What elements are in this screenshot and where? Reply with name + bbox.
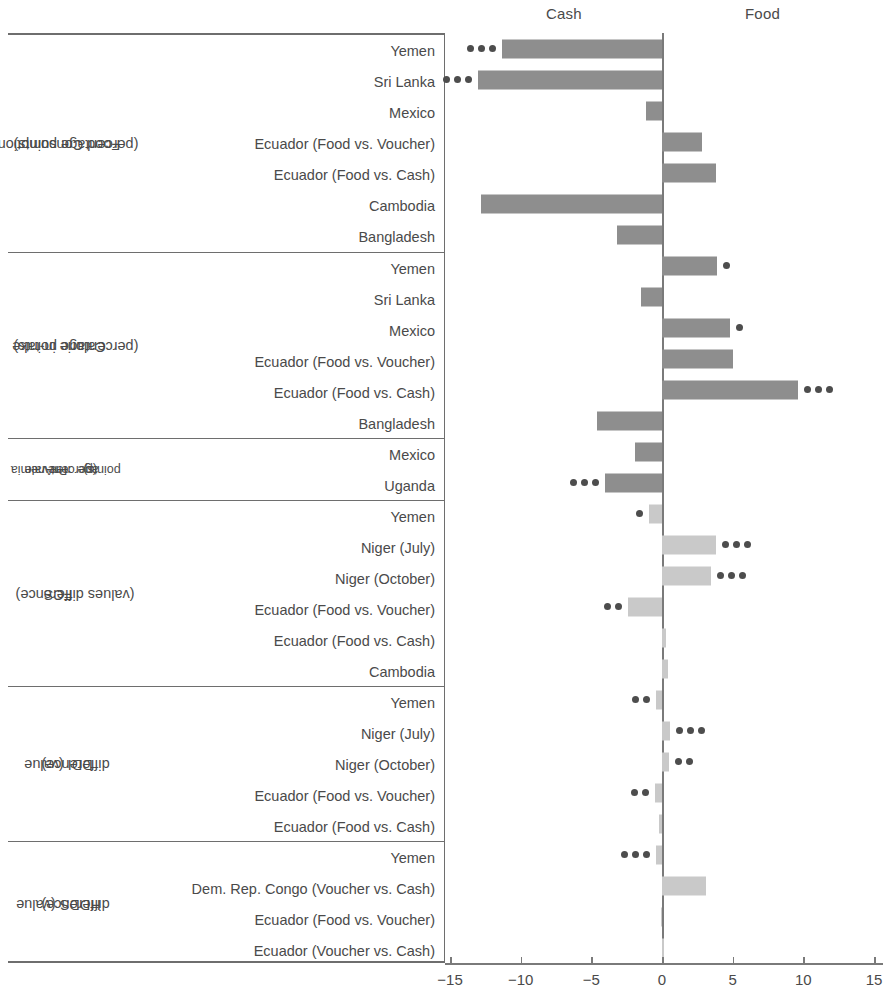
significance-dot-icon	[717, 572, 724, 579]
bar	[662, 566, 711, 585]
bar	[655, 783, 662, 802]
bar	[662, 752, 669, 771]
bar	[649, 504, 662, 523]
category-label: Yemen	[390, 509, 435, 524]
category-label: Ecuador (Food vs. Voucher)	[254, 788, 435, 803]
category-label: Ecuador (Food vs. Cash)	[274, 633, 435, 648]
bar	[646, 101, 662, 120]
group-label: HDDS (valuedifference)	[8, 842, 126, 965]
bar	[662, 318, 730, 337]
category-label: Ecuador (Food vs. Voucher)	[254, 354, 435, 369]
group-rows: YemenDem. Rep. Congo (Voucher vs. Cash)E…	[126, 842, 444, 965]
significance-dots	[722, 541, 751, 549]
axis-tick-label: 15	[866, 971, 883, 988]
significance-dot-icon	[636, 510, 643, 517]
category-label: Sri Lanka	[374, 74, 435, 89]
axis-tick	[874, 957, 876, 965]
significance-dot-icon	[744, 541, 751, 548]
significance-dots	[736, 324, 743, 332]
group-label-text: AnemiaPrevalenee(percentagepoints)	[25, 442, 109, 498]
bar	[662, 132, 702, 151]
significance-dot-icon	[604, 603, 611, 610]
significance-dot-icon	[736, 324, 743, 331]
group-label-text: Food Consumption(percentage points)	[50, 81, 84, 206]
significance-dot-icon	[570, 479, 577, 486]
significance-dot-icon	[826, 386, 833, 393]
group-rows: MexicoUganda	[126, 439, 444, 500]
category-label: Bangladesh	[358, 416, 435, 431]
group-label: Food Consumption(percentage points)	[8, 35, 126, 252]
category-label: Ecuador (Food vs. Cash)	[274, 167, 435, 182]
significance-dot-icon	[815, 386, 822, 393]
category-label: Mexico	[389, 323, 435, 338]
significance-dot-icon	[443, 76, 450, 83]
bar	[628, 597, 662, 616]
group-label: Calorie in-take(percentage points)	[8, 253, 126, 438]
bar	[478, 70, 662, 89]
group-label: DDI (valuedifference)	[8, 687, 126, 841]
significance-dots	[443, 76, 472, 84]
significance-dot-icon	[632, 696, 639, 703]
significance-dot-icon	[687, 727, 694, 734]
category-label-frame: Food Consumption(percentage points)Yemen…	[8, 33, 445, 963]
significance-dot-icon	[581, 479, 588, 486]
significance-dot-icon	[467, 45, 474, 52]
category-label: Uganda	[384, 478, 435, 493]
bar	[597, 411, 662, 430]
category-label: Ecuador (Food vs. Cash)	[274, 385, 435, 400]
axis-side-label-cash: Cash	[546, 5, 582, 22]
group-label: AnemiaPrevalenee(percentagepoints)	[8, 439, 126, 500]
significance-dot-icon	[643, 696, 650, 703]
significance-dot-icon	[643, 851, 650, 858]
bar	[661, 907, 663, 926]
axis-tick	[591, 957, 593, 965]
axis-tick-label: −10	[508, 971, 533, 988]
category-label: Ecuador (Food vs. Voucher)	[254, 602, 435, 617]
category-group: Calorie in-take(percentage points)YemenS…	[8, 252, 444, 438]
significance-dots	[621, 851, 650, 859]
significance-dots	[804, 386, 833, 394]
significance-dot-icon	[698, 727, 705, 734]
bar	[481, 194, 662, 213]
bar	[662, 256, 717, 275]
bar	[662, 721, 670, 740]
significance-dot-icon	[632, 851, 639, 858]
group-rows: YemenNiger (July)Niger (October)Ecuador …	[126, 687, 444, 841]
category-group: FCS(values difference)YemenNiger (July)N…	[8, 500, 444, 686]
category-label: Niger (July)	[361, 726, 435, 741]
bar	[635, 442, 662, 461]
category-label: Niger (July)	[361, 540, 435, 555]
significance-dots	[717, 572, 746, 580]
group-label-text: HDDS (valuedifference)	[50, 845, 84, 963]
significance-dot-icon	[675, 758, 682, 765]
x-axis-line	[445, 963, 883, 965]
category-group: Food Consumption(percentage points)Yemen…	[8, 35, 444, 252]
bar	[662, 659, 668, 678]
category-label: Dem. Rep. Congo (Voucher vs. Cash)	[192, 881, 435, 896]
significance-dot-icon	[739, 572, 746, 579]
group-rows: YemenNiger (July)Niger (October)Ecuador …	[126, 501, 444, 686]
axis-tick	[733, 957, 735, 965]
significance-dots	[570, 479, 599, 487]
category-label: Yemen	[390, 261, 435, 276]
significance-dots	[604, 603, 622, 611]
category-label: Ecuador (Food vs. Voucher)	[254, 912, 435, 927]
significance-dot-icon	[733, 541, 740, 548]
significance-dot-icon	[478, 45, 485, 52]
significance-dot-icon	[686, 758, 693, 765]
bar	[662, 938, 664, 957]
axis-tick	[662, 957, 664, 965]
category-label: Yemen	[390, 850, 435, 865]
chart-canvas: Cash Food Food Consumption(percentage po…	[0, 0, 883, 994]
category-label: Ecuador (Food vs. Cash)	[274, 819, 435, 834]
significance-dot-icon	[621, 851, 628, 858]
bar	[502, 39, 662, 58]
significance-dot-icon	[592, 479, 599, 486]
category-label: Sri Lanka	[374, 292, 435, 307]
significance-dots	[632, 696, 650, 704]
significance-dot-icon	[722, 541, 729, 548]
category-label: Niger (October)	[335, 571, 435, 586]
significance-dots	[467, 45, 496, 53]
significance-dots	[723, 262, 730, 270]
axis-tick-label: −15	[437, 971, 462, 988]
